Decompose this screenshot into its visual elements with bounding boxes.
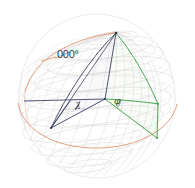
spherical-coordinate-diagram: 000° λ φ bbox=[0, 0, 195, 188]
globe-wireframe bbox=[0, 0, 195, 188]
longitude-angle-label: λ bbox=[75, 101, 81, 111]
prime-meridian-label: 000° bbox=[57, 48, 79, 60]
latitude-angle-label: φ bbox=[114, 96, 120, 106]
